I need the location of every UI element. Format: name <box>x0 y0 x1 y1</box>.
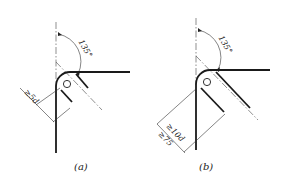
figure-canvas: 135° ≥5d (a) 135° <box>0 0 284 180</box>
angle-label-a: 135° <box>77 38 94 59</box>
arrowhead-icon <box>198 28 202 32</box>
dimension-label-a: ≥5d <box>22 88 40 106</box>
caption-a: (a) <box>74 161 88 172</box>
hook-diagram: 135° ≥5d (a) 135° <box>0 0 284 180</box>
angle-arc-b <box>198 30 221 70</box>
hook-inner-a <box>76 74 88 88</box>
ext-line-b2 <box>184 114 225 152</box>
diagonal-centerline-b <box>196 56 258 120</box>
angle-label-b: 135° <box>217 34 234 55</box>
panel-a: 135° ≥5d (a) <box>20 22 130 172</box>
caption-b: (b) <box>199 161 213 172</box>
panel-b: 135° ≥10d ≥75 (b) <box>156 18 270 172</box>
pin-circle-a <box>63 80 70 87</box>
arrowhead-icon <box>58 32 62 36</box>
bar-outer-b <box>196 70 270 150</box>
hook-tail-a <box>61 90 72 102</box>
diagonal-centerline-a <box>56 62 102 110</box>
hook-inner-b <box>216 72 250 108</box>
hook-tail-b <box>201 88 224 112</box>
ext-line-b1 <box>157 88 197 124</box>
pin-circle-b <box>203 78 210 85</box>
bar-outer-a <box>56 72 130 153</box>
angle-arc-a <box>58 34 81 74</box>
